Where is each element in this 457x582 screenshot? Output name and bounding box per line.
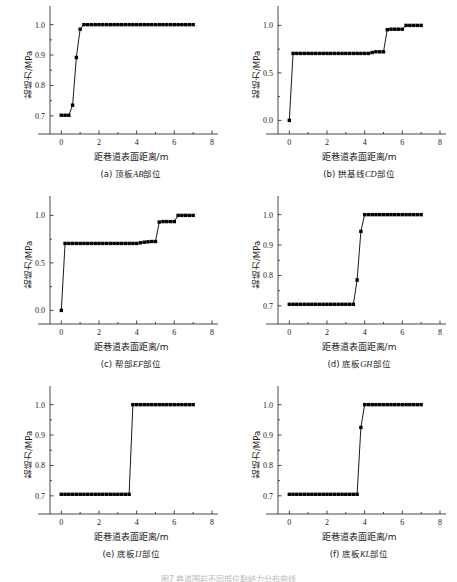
- data-point-marker: [184, 23, 187, 26]
- subplot-panel-f: 距巷道表面距离/m(f) 底板KL部位024680.70.80.91.0黏结力/…: [228, 380, 457, 570]
- y-tick-label: 0.7: [263, 302, 273, 311]
- x-tick-label: 8: [210, 518, 214, 527]
- caption-prefix: (e) 底板: [102, 549, 135, 559]
- data-point-marker: [127, 23, 130, 26]
- x-tick-label: 4: [363, 518, 367, 527]
- data-point-marker: [295, 52, 298, 55]
- x-tick-label: 2: [325, 328, 329, 337]
- data-point-marker: [116, 23, 119, 26]
- y-tick-label: 0.9: [35, 51, 45, 60]
- x-tick-label: 8: [438, 518, 442, 527]
- x-axis-label-b: 距巷道表面距离/m: [238, 150, 457, 163]
- subplot-caption-c: (c) 帮部EF部位: [10, 357, 252, 369]
- data-point-marker: [71, 242, 74, 245]
- data-point-marker: [124, 242, 127, 245]
- caption-prefix: (a) 顶板: [101, 169, 134, 179]
- x-tick-label: 6: [172, 328, 176, 337]
- data-point-marker: [299, 52, 302, 55]
- data-point-marker: [318, 493, 321, 496]
- data-point-marker: [86, 493, 89, 496]
- data-point-marker: [90, 23, 93, 26]
- y-tick-label: 0.5: [35, 259, 45, 268]
- data-point-marker: [340, 52, 343, 55]
- x-tick-label: 4: [135, 328, 139, 337]
- data-point-marker: [180, 403, 183, 406]
- data-point-marker: [94, 493, 97, 496]
- data-point-marker: [116, 493, 119, 496]
- data-point-marker: [337, 52, 340, 55]
- data-point-marker: [295, 303, 298, 306]
- data-point-marker: [288, 303, 291, 306]
- subplot-panel-e: 距巷道表面距离/m(e) 底板IJ部位024680.70.80.91.0黏结力/…: [0, 380, 228, 570]
- data-point-marker: [370, 51, 373, 54]
- data-point-marker: [389, 403, 392, 406]
- caption-prefix: (f) 底板: [330, 549, 360, 559]
- data-point-marker: [131, 242, 134, 245]
- data-point-marker: [291, 52, 294, 55]
- data-point-marker: [348, 52, 351, 55]
- y-tick-label: 0.7: [35, 112, 45, 121]
- data-point-marker: [370, 213, 373, 216]
- data-point-marker: [299, 493, 302, 496]
- data-point-marker: [120, 493, 123, 496]
- data-point-marker: [71, 104, 74, 107]
- x-tick-label: 4: [363, 138, 367, 147]
- x-axis-label-d: 距巷道表面距离/m: [238, 340, 457, 353]
- caption-suffix: 部位: [143, 169, 161, 179]
- data-point-marker: [374, 50, 377, 53]
- data-point-marker: [348, 493, 351, 496]
- subplot-caption-e: (e) 底板IJ部位: [10, 547, 252, 559]
- data-point-marker: [389, 28, 392, 31]
- data-point-marker: [60, 114, 63, 117]
- plot-area-a: 024680.70.80.91.0黏结力/MPa: [0, 0, 228, 150]
- data-point-marker: [101, 242, 104, 245]
- data-point-marker: [169, 220, 172, 223]
- data-point-marker: [158, 23, 161, 26]
- plot-area-c: 024680.00.51.0黏结力/MPa: [0, 190, 228, 340]
- plot-area-d: 024680.70.80.91.0黏结力/MPa: [228, 190, 457, 340]
- data-point-marker: [352, 303, 355, 306]
- data-point-marker: [314, 52, 317, 55]
- subplot-panel-a: 距巷道表面距离/m(a) 顶板AB部位024680.70.80.91.0黏结力/…: [0, 0, 228, 190]
- caption-italic-letters: IJ: [135, 549, 142, 559]
- data-point-marker: [82, 493, 85, 496]
- y-tick-label: 0.8: [35, 461, 45, 470]
- data-point-marker: [404, 213, 407, 216]
- data-point-marker: [288, 493, 291, 496]
- data-point-marker: [288, 119, 291, 122]
- data-point-marker: [150, 240, 153, 243]
- data-point-marker: [154, 240, 157, 243]
- subplot-panel-c: 距巷道表面距离/m(c) 帮部EF部位024680.00.51.0黏结力/MPa: [0, 190, 228, 380]
- data-point-marker: [67, 493, 70, 496]
- data-point-marker: [367, 52, 370, 55]
- x-tick-label: 6: [400, 138, 404, 147]
- x-tick-label: 8: [210, 328, 214, 337]
- data-point-marker: [393, 28, 396, 31]
- subplot-caption-f: (f) 底板KL部位: [238, 547, 457, 559]
- data-point-marker: [63, 114, 66, 117]
- data-point-marker: [333, 493, 336, 496]
- data-point-marker: [416, 24, 419, 27]
- data-point-marker: [408, 213, 411, 216]
- data-point-marker: [173, 23, 176, 26]
- data-point-marker: [295, 493, 298, 496]
- data-point-marker: [378, 213, 381, 216]
- caption-suffix: 部位: [370, 549, 388, 559]
- data-point-marker: [127, 242, 130, 245]
- data-point-marker: [404, 403, 407, 406]
- data-point-marker: [367, 403, 370, 406]
- data-series-line: [61, 215, 193, 310]
- data-point-marker: [352, 493, 355, 496]
- data-point-marker: [165, 23, 168, 26]
- data-point-marker: [355, 493, 358, 496]
- data-point-marker: [329, 303, 332, 306]
- data-point-marker: [310, 303, 313, 306]
- data-point-marker: [359, 426, 362, 429]
- subplot-panel-b: 距巷道表面距离/m(b) 拱基线CD部位024680.00.51.0黏结力/MP…: [228, 0, 457, 190]
- data-point-marker: [109, 493, 112, 496]
- y-tick-label: 1.0: [263, 21, 273, 30]
- data-point-marker: [180, 23, 183, 26]
- data-point-marker: [180, 214, 183, 217]
- data-point-marker: [397, 403, 400, 406]
- y-tick-label: 0.8: [263, 271, 273, 280]
